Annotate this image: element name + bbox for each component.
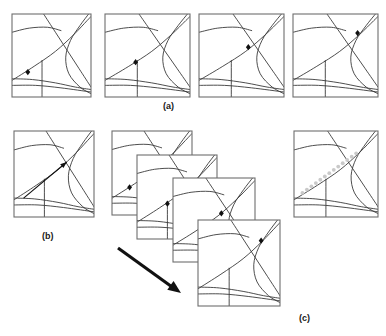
figure-canvas [0, 0, 386, 336]
panel-a3 [199, 14, 284, 97]
cascade-4 [198, 220, 280, 306]
panel-a2 [105, 14, 190, 97]
panel-b [14, 131, 94, 217]
caption-a: (a) [163, 101, 174, 111]
caption-b: (b) [42, 231, 54, 241]
panel-a4 [293, 14, 378, 97]
caption-c: (c) [299, 313, 310, 323]
panel-a1 [12, 14, 91, 97]
panel-c-result [294, 131, 378, 217]
cascade-arrow [118, 248, 181, 293]
